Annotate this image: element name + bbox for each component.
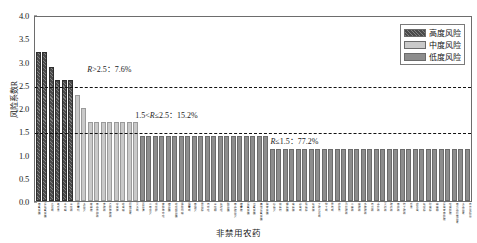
bar-low (224, 136, 229, 201)
x-axis-tick-label: 苏云金杆菌 (465, 203, 472, 218)
bar-low (406, 149, 411, 201)
legend-swatch-high-icon (404, 29, 426, 37)
bar-low (374, 149, 379, 201)
risk-coefficient-bar-chart: 风险系数R 0.00.51.01.52.02.53.03.54.0 R>2.5：… (0, 0, 477, 243)
bar-low (263, 136, 268, 201)
bar-low (218, 136, 223, 201)
bar-low (361, 149, 366, 201)
bar-low (445, 149, 450, 201)
bar-low (348, 149, 353, 201)
bar-low (185, 136, 190, 201)
bar-low (335, 149, 340, 201)
bar-low (439, 149, 444, 201)
bar-low (322, 149, 327, 201)
bar-low (367, 149, 372, 201)
bar-low (452, 149, 457, 201)
bar-low (354, 149, 359, 201)
bar-low (283, 149, 288, 201)
bar-high (42, 52, 47, 201)
x-axis-tick-labels: 甲氰菊酯氯氟氰菊酯克百威氧乐果毒死蜱三唑磷腐霉利多菌灵咪鲜胺甲基异柳磷辛硫磷乙酰… (34, 203, 472, 225)
bar-high (55, 80, 60, 201)
bar-low (387, 149, 392, 201)
y-axis-tick-label: 2.0 (19, 104, 29, 114)
legend: 高度风险 中度风险 低度风险 (400, 24, 465, 65)
bar-low (465, 149, 470, 201)
bar-low (192, 136, 197, 201)
bar-low (400, 149, 405, 201)
bar-low (341, 149, 346, 201)
x-axis-title: 非禁用农药 (0, 226, 477, 238)
y-axis-tick-label: 1.5 (19, 127, 29, 137)
legend-item-high: 高度风险 (404, 27, 461, 38)
bar-low (172, 136, 177, 201)
bar-low (270, 149, 275, 201)
y-axis-tick-label: 3.5 (19, 34, 29, 44)
bar-low (315, 149, 320, 201)
bar-low (231, 136, 236, 201)
bar-low (250, 136, 255, 201)
bar-low (302, 149, 307, 201)
y-axis-tick-label: 3.0 (19, 58, 29, 68)
legend-item-mid: 中度风险 (404, 39, 461, 50)
bar-low (153, 136, 158, 201)
legend-label-low: 低度风险 (429, 51, 461, 62)
bar-low (296, 149, 301, 201)
y-axis: 0.00.51.01.52.02.53.03.54.0 (0, 16, 34, 202)
bar-low (393, 149, 398, 201)
y-axis-tick-label: 0.5 (19, 174, 29, 184)
bar-low (413, 149, 418, 201)
bar-low (419, 149, 424, 201)
annotation-mid-risk: 1.5<R≤2.5：15.2% (135, 109, 197, 120)
legend-swatch-mid-icon (404, 41, 426, 49)
bar-low (309, 149, 314, 201)
legend-label-high: 高度风险 (429, 27, 461, 38)
bar-low (159, 136, 164, 201)
y-axis-tick-label: 0.0 (19, 197, 29, 207)
bar-low (257, 136, 262, 201)
bar-low (179, 136, 184, 201)
bar-low (166, 136, 171, 201)
bar-low (276, 149, 281, 201)
y-axis-tick-label: 2.5 (19, 81, 29, 91)
bar-low (198, 136, 203, 201)
bar-low (289, 149, 294, 201)
bar-high (36, 52, 41, 201)
reference-line-2_5 (35, 87, 471, 88)
y-axis-tick-label: 1.0 (19, 151, 29, 161)
bar-low (380, 149, 385, 201)
bar-low (432, 149, 437, 201)
bar-low (146, 136, 151, 201)
bar-low (211, 136, 216, 201)
bar-low (426, 149, 431, 201)
bar-low (328, 149, 333, 201)
bar-mid (75, 95, 80, 201)
annotation-high-risk: R>2.5：7.6% (87, 63, 131, 74)
bar-high (68, 80, 73, 201)
plot-area: R>2.5：7.6% 1.5<R≤2.5：15.2% R≤1.5：77.2% 高… (34, 16, 472, 202)
legend-swatch-low-icon (404, 53, 426, 61)
bar-low (205, 136, 210, 201)
bar-high (62, 80, 67, 201)
legend-label-mid: 中度风险 (429, 39, 461, 50)
legend-item-low: 低度风险 (404, 51, 461, 62)
bar-low (140, 136, 145, 201)
annotation-low-risk: R≤1.5：77.2% (270, 135, 318, 146)
bar-mid (81, 108, 86, 201)
bar-low (237, 136, 242, 201)
bar-low (244, 136, 249, 201)
y-axis-tick-label: 4.0 (19, 11, 29, 21)
bar-low (458, 149, 463, 201)
reference-line-1_5 (35, 133, 471, 134)
